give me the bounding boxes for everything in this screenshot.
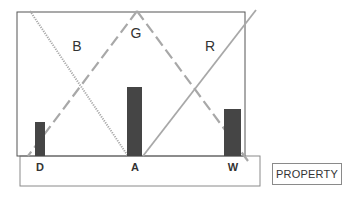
bar-a [127,87,142,156]
region-label-r: R [205,39,215,53]
region-label-b: B [72,39,81,53]
bar-d [35,122,45,156]
bar-w [224,109,241,156]
axis-label-w: W [228,162,238,173]
axis-label-a: A [131,162,139,173]
region-label-g: G [131,26,142,40]
base-strip [20,156,260,186]
property-box: PROPERTY [272,163,342,185]
axis-label-d: D [36,162,44,173]
bars-group [35,87,241,156]
property-label: PROPERTY [276,168,338,180]
